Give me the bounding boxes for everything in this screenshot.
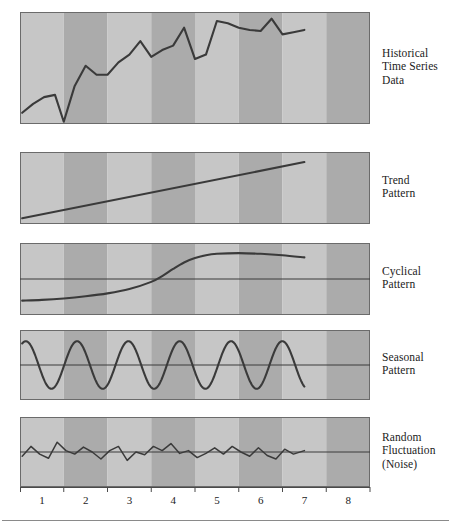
panel-label-trend: TrendPattern bbox=[382, 174, 415, 201]
panel-label-historical-line-0: Historical bbox=[382, 47, 438, 61]
x-axis bbox=[20, 487, 370, 492]
stripe-band bbox=[20, 152, 64, 224]
x-tick-label-4: 4 bbox=[166, 494, 180, 506]
panel-label-trend-line-1: Pattern bbox=[382, 187, 415, 201]
panel-trend-stripes bbox=[20, 152, 370, 224]
panel-trend bbox=[20, 152, 370, 224]
panel-label-seasonal-line-0: Seasonal bbox=[382, 351, 424, 365]
panel-historical bbox=[20, 12, 370, 124]
panel-label-seasonal-line-1: Pattern bbox=[382, 364, 424, 378]
stripe-band bbox=[326, 152, 370, 224]
stripe-band bbox=[108, 152, 152, 224]
panel-label-seasonal: SeasonalPattern bbox=[382, 351, 424, 378]
panel-label-cyclical: CyclicalPattern bbox=[382, 265, 421, 292]
stripe-band bbox=[326, 12, 370, 124]
stripe-band bbox=[195, 12, 239, 124]
stripe-band bbox=[195, 152, 239, 224]
panel-label-historical-line-1: Time Series bbox=[382, 60, 438, 74]
x-tick-label-8: 8 bbox=[341, 494, 355, 506]
stripe-band bbox=[64, 12, 108, 124]
stripe-band bbox=[283, 12, 327, 124]
panel-label-cyclical-line-1: Pattern bbox=[382, 278, 421, 292]
panel-label-cyclical-line-0: Cyclical bbox=[382, 265, 421, 279]
stripe-band bbox=[239, 152, 283, 224]
x-tick-label-6: 6 bbox=[254, 494, 268, 506]
panel-historical-stripes bbox=[20, 12, 370, 124]
stripe-band bbox=[151, 12, 195, 124]
panel-label-noise-line-0: Random bbox=[382, 431, 436, 445]
panel-cyclical bbox=[20, 243, 370, 315]
x-tick-label-1: 1 bbox=[35, 494, 49, 506]
stripe-band bbox=[64, 152, 108, 224]
panel-label-noise-line-1: Fluctuation bbox=[382, 444, 436, 458]
x-tick-label-2: 2 bbox=[79, 494, 93, 506]
x-tick-label-5: 5 bbox=[210, 494, 224, 506]
panel-label-trend-line-0: Trend bbox=[382, 174, 415, 188]
panel-label-historical-line-2: Data bbox=[382, 74, 438, 88]
panel-noise bbox=[20, 417, 370, 487]
panel-seasonal bbox=[20, 330, 370, 400]
time-series-decomposition-figure: HistoricalTime SeriesDataTrendPatternCyc… bbox=[0, 0, 451, 531]
stripe-band bbox=[20, 12, 64, 124]
panel-label-noise: RandomFluctuation(Noise) bbox=[382, 431, 436, 472]
panel-label-noise-line-2: (Noise) bbox=[382, 458, 436, 472]
x-tick-label-7: 7 bbox=[297, 494, 311, 506]
panel-label-historical: HistoricalTime SeriesData bbox=[382, 47, 438, 88]
x-tick-label-3: 3 bbox=[122, 494, 136, 506]
footer-rule bbox=[2, 520, 449, 521]
